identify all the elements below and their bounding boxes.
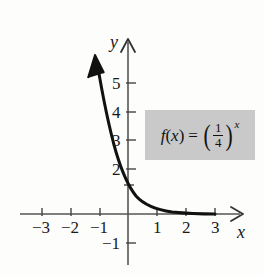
y-axis-label: y [110, 32, 118, 53]
formula-exponent: x [234, 119, 239, 130]
y-tick-label-3: 3 [112, 131, 121, 151]
x-tick-label-1: 1 [153, 218, 162, 238]
x-tick-label--3: −3 [32, 218, 50, 238]
x-axis-label: x [237, 222, 245, 243]
y-tick-label-2: 2 [112, 160, 121, 180]
curve-arrow-icon [88, 55, 104, 78]
formula-callout-box: f(x) = ( 1 4 )x [145, 110, 255, 160]
x-tick-label--2: −2 [61, 218, 79, 238]
formula-close-paren: ) [179, 127, 185, 144]
formula-denominator: 4 [213, 136, 224, 150]
y-tick-label-4: 4 [112, 103, 121, 123]
formula-fraction: 1 4 [213, 121, 224, 150]
formula-big-close-paren: ) [226, 123, 233, 146]
y-tick-label-5: 5 [112, 74, 121, 94]
formula-big-open-paren: ( [203, 123, 210, 146]
formula-numerator: 1 [213, 121, 224, 135]
function-formula: f(x) = ( 1 4 )x [161, 121, 240, 150]
exponential-decay-graph-figure: −3 −2 −1 1 2 3 5 4 3 2 −1 y x f(x) = ( 1… [0, 0, 264, 277]
y-tick-marks [124, 83, 136, 243]
x-tick-label-2: 2 [182, 218, 191, 238]
formula-equals: = [188, 127, 198, 144]
y-tick-label--1: −1 [102, 234, 120, 254]
x-tick-label-3: 3 [211, 218, 220, 238]
formula-var: x [171, 127, 179, 144]
